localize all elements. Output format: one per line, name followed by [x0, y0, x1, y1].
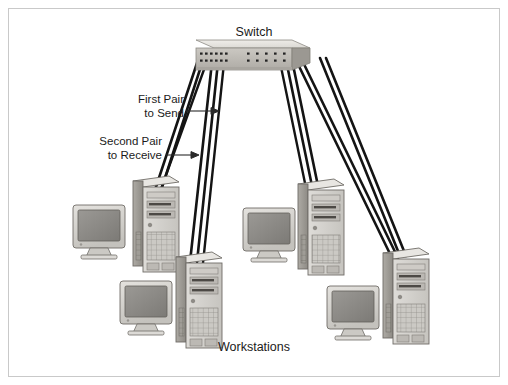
switch-device[interactable] — [196, 40, 310, 70]
switch-front-trim — [196, 67, 292, 70]
switch-top-face — [196, 40, 310, 48]
network-diagram-figure: Switch First Pair to Send Second Pair to… — [0, 0, 508, 385]
workstation-1[interactable] — [73, 176, 179, 272]
crt-monitor — [243, 208, 295, 262]
diagram-canvas — [0, 0, 508, 385]
switch-label: Switch — [0, 25, 508, 40]
tower-pc — [176, 252, 222, 348]
second-pair-to-receive-label: Second Pair to Receive — [70, 134, 162, 162]
switch-side-face — [292, 48, 310, 70]
workstation-2[interactable] — [243, 179, 344, 275]
tower-pc — [133, 176, 179, 272]
tower-pc — [298, 179, 344, 275]
switch-front-face — [196, 48, 292, 70]
cable-pair-7 — [280, 62, 306, 188]
tower-pc — [383, 248, 429, 344]
first-pair-to-send-label: First Pair to Send — [106, 92, 184, 120]
crt-monitor — [120, 281, 172, 335]
crt-monitor — [327, 286, 379, 340]
crt-monitor — [73, 205, 125, 259]
workstations-label: Workstations — [0, 340, 508, 355]
